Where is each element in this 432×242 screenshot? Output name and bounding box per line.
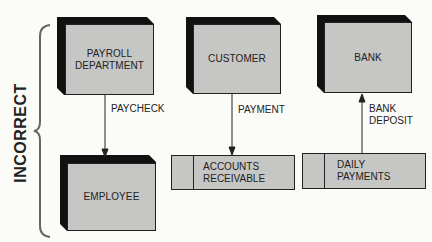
flow-label-payment: PAYMENT — [238, 104, 285, 116]
diagram-canvas: INCORRECT PAYROLL DEPARTMENT CUSTOMER BA… — [0, 0, 432, 242]
flow-label-paycheck: PAYCHECK — [111, 103, 165, 115]
flow-label-bank-deposit: BANK DEPOSIT — [369, 103, 413, 127]
flow-arrows — [0, 0, 432, 242]
